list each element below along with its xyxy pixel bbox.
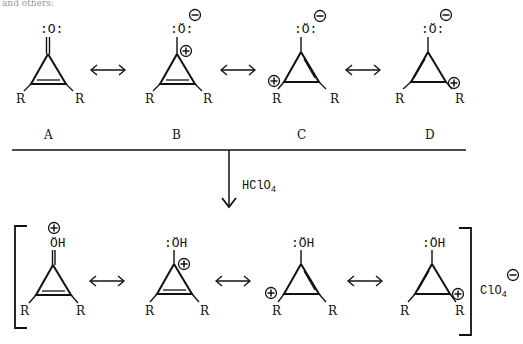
structure-label: C [297,128,306,142]
hydroxy-label: :ÖH [291,236,314,251]
resonance-arrow-icon [91,65,125,75]
r-group: R [75,92,85,106]
protonated-structure-2: :ÖH R R [145,236,210,318]
oxygen-label: :Ö: [170,22,193,37]
r-group: R [76,304,86,318]
structure-label: A [43,128,53,142]
oxygen-label: :O: [40,22,63,37]
counterion-label: ClO4 [480,284,507,300]
right-bracket [459,228,471,335]
r-group: R [395,92,405,106]
r-group: R [330,92,340,106]
oxygen-label: :Ö: [421,22,444,37]
plus-charge-icon [266,288,277,299]
plus-charge-icon [179,259,190,270]
resonance-arrow-icon [348,276,382,286]
reaction-diagram: and others: :O: R R :Ö: R R :Ö: [0,0,523,344]
structure-b: :Ö: R R [145,10,213,107]
r-group: R [145,304,155,318]
r-group: R [455,92,465,106]
hydroxy-label: :ÖH [164,236,187,251]
plus-charge-icon [453,289,464,300]
minus-charge-icon [508,270,519,281]
protonated-structure-1: ÖH R R [20,223,86,319]
plus-charge-icon [181,46,192,57]
resonance-arrow-icon [90,276,124,286]
structure-label: D [425,128,435,142]
r-group: R [400,304,410,318]
resonance-arrow-icon [221,65,255,75]
resonance-arrow-icon [346,65,380,75]
reagent-label: HClO4 [242,179,276,195]
protonated-structure-3: :ÖH R R [266,236,339,318]
protonated-structure-4: :ÖH R R [400,236,465,318]
minus-charge-icon [441,10,452,21]
structure-a: :O: R R [16,22,85,106]
plus-charge-icon [269,76,280,87]
oxygen-label: :Ö: [294,22,317,37]
r-group: R [200,304,210,318]
r-group: R [455,304,465,318]
r-group: R [145,92,155,106]
minus-charge-icon [190,10,201,21]
plus-charge-icon [49,223,60,234]
r-group: R [16,92,26,106]
r-group: R [272,304,282,318]
structure-d: :Ö: R R [395,10,465,107]
minus-charge-icon [315,11,326,22]
structure-c: :Ö: R R [269,11,341,107]
plus-charge-icon [449,78,460,89]
r-group: R [203,92,213,106]
r-group: R [328,304,338,318]
r-group: R [272,92,282,106]
r-group: R [20,304,30,318]
caption-fragment: and others: [2,0,54,8]
hydroxy-label: :ÖH [422,236,445,251]
resonance-arrow-icon [216,276,250,286]
hydroxy-label: ÖH [50,236,66,251]
structure-label: B [172,128,181,142]
